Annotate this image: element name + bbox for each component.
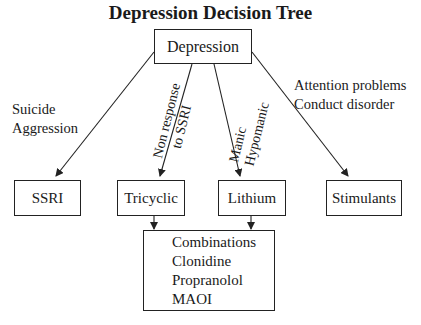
edge-label-line: Conduct disorder — [294, 95, 406, 114]
edge-label-ssri: Suicide Aggression — [12, 100, 78, 138]
option-item: Propranolol — [172, 271, 256, 290]
edge-label-line: Aggression — [12, 119, 78, 138]
edge-label-line: Suicide — [12, 100, 78, 119]
option-item: MAOI — [172, 290, 256, 309]
other-options-list: Combinations Clonidine Propranolol MAOI — [172, 233, 256, 309]
option-item: Combinations — [172, 233, 256, 252]
edge-label-line: Attention problems — [294, 76, 406, 95]
node-lithium: Lithium — [218, 180, 286, 216]
node-tricyclic: Tricyclic — [117, 180, 185, 216]
node-stimulants: Stimulants — [326, 180, 402, 216]
option-item: Clonidine — [172, 252, 256, 271]
node-depression: Depression — [154, 29, 252, 64]
node-ssri: SSRI — [14, 180, 81, 216]
edge-label-stimulants: Attention problems Conduct disorder — [294, 76, 406, 114]
